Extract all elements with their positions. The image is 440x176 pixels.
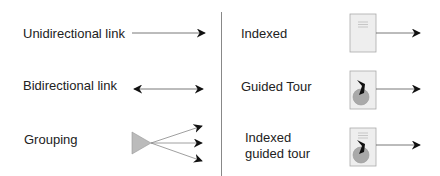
guided-tour-page-icon xyxy=(350,71,420,109)
legend-diagram xyxy=(0,0,440,176)
indexed-guided-tour-page-icon xyxy=(350,128,420,166)
grouping-icon xyxy=(132,126,202,161)
indexed-page-icon xyxy=(350,14,420,52)
